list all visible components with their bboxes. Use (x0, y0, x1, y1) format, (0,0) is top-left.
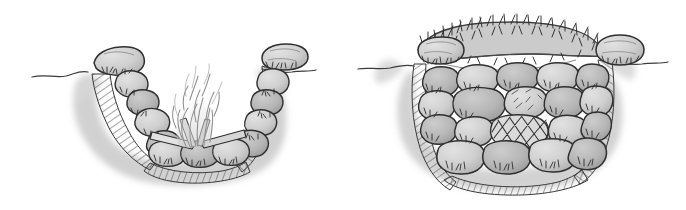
right-figure-covered-stone-pit (358, 14, 668, 195)
stone-fill-row-4 (437, 138, 607, 174)
flames (173, 64, 222, 148)
crosshatched-stone (504, 87, 547, 118)
rim-capstone-right (262, 44, 308, 70)
left-figure-open-fire-pit (32, 44, 316, 186)
fire-pit-illustration-svg (0, 0, 686, 210)
illustration-root: Two cross-section drawings of stone-line… (0, 0, 686, 210)
